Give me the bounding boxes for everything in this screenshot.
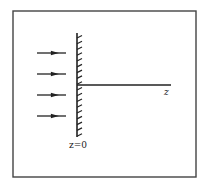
z-axis-label: z bbox=[163, 87, 169, 97]
diagram-svg: z z=0 bbox=[0, 0, 206, 191]
diagram-canvas: z z=0 bbox=[0, 0, 206, 191]
incident-arrow bbox=[37, 51, 66, 55]
arrowhead-icon bbox=[51, 114, 59, 118]
incident-arrow bbox=[37, 114, 66, 118]
incident-wave-arrows bbox=[37, 51, 66, 118]
arrowhead-icon bbox=[51, 51, 59, 55]
wall-position-label: z=0 bbox=[69, 140, 87, 150]
incident-arrow bbox=[37, 72, 66, 76]
incident-arrow bbox=[37, 93, 66, 97]
arrowhead-icon bbox=[51, 72, 59, 76]
arrowhead-icon bbox=[51, 93, 59, 97]
